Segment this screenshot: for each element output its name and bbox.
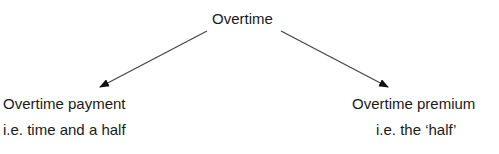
root-node-overtime: Overtime	[212, 10, 273, 27]
node-overtime-premium: Overtime premium	[352, 95, 475, 112]
arrow-to-overtime-premium	[281, 31, 388, 87]
arrow-to-overtime-payment	[100, 31, 207, 87]
node-overtime-premium-subtitle: i.e. the ‘half’	[376, 121, 456, 138]
node-overtime-payment: Overtime payment	[3, 95, 126, 112]
node-overtime-payment-subtitle: i.e. time and a half	[3, 121, 126, 138]
